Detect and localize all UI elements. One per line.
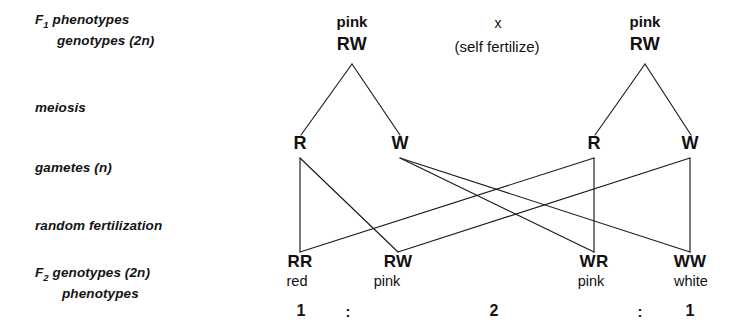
ratio-colon-2: : (638, 303, 643, 320)
gametes-text: gametes (n) (35, 160, 112, 175)
offspring-genotype-WR: WR (580, 252, 609, 272)
row-label-meiosis: meiosis (35, 100, 86, 115)
f1-phenotypes-text: phenotypes (53, 12, 130, 27)
parent-right-genotype: RW (630, 34, 660, 55)
gamete-right-R: R (588, 133, 601, 154)
row-label-gametes: gametes (n) (35, 160, 112, 175)
f1-subscript: 1 (43, 19, 48, 30)
row-label-f2-genotypes: F2 genotypes (2n) (35, 265, 150, 283)
offspring-genotype-RR: RR (287, 252, 312, 272)
row-label-f1-genotypes: genotypes (2n) (57, 33, 154, 48)
offspring-phenotype-pink-left: pink (374, 273, 401, 289)
row-label-f2-phenotypes: phenotypes (62, 286, 139, 301)
row-label-f1-phenotypes: F1 phenotypes (35, 12, 129, 30)
offspring-phenotype-pink-right: pink (578, 273, 605, 289)
offspring-phenotype-red: red (287, 273, 308, 289)
fert-line-rightR-to-RR-cross (300, 158, 594, 252)
ratio-first: 1 (297, 302, 306, 320)
offspring-genotype-WW: WW (674, 252, 707, 272)
f1-genotypes-text: genotypes (2n) (57, 33, 154, 48)
ratio-colon-1: : (346, 303, 351, 320)
meiosis-line-right-to-R (595, 64, 645, 135)
meiosis-text: meiosis (35, 100, 86, 115)
fert-line-leftR-to-RW (300, 158, 398, 252)
gamete-left-R: R (294, 133, 307, 154)
meiosis-line-left-to-R (301, 64, 352, 135)
fert-line-leftW-to-WR (400, 158, 594, 252)
meiosis-line-right-to-W (645, 64, 691, 135)
meiosis-line-left-to-W (352, 64, 400, 135)
random-fertilization-text: random fertilization (35, 218, 162, 233)
row-label-random-fertilization: random fertilization (35, 218, 162, 233)
f2-subscript: 2 (43, 272, 48, 283)
f2-genotypes-text: genotypes (2n) (53, 265, 150, 280)
gamete-left-W: W (392, 133, 409, 154)
parent-right-phenotype: pink (630, 13, 661, 30)
f2-phenotypes-text: phenotypes (62, 286, 139, 301)
parent-left-genotype: RW (337, 34, 367, 55)
offspring-phenotype-white: white (674, 273, 708, 289)
parent-left-phenotype: pink (337, 13, 368, 30)
cross-symbol: x (495, 15, 502, 31)
ratio-second: 2 (490, 302, 499, 320)
offspring-genotype-RW: RW (384, 252, 413, 272)
self-fertilize-note: (self fertilize) (454, 38, 539, 55)
ratio-third: 1 (686, 302, 695, 320)
gamete-right-W: W (682, 133, 699, 154)
genetics-cross-diagram: F1 phenotypes genotypes (2n) meiosis gam… (0, 0, 750, 335)
